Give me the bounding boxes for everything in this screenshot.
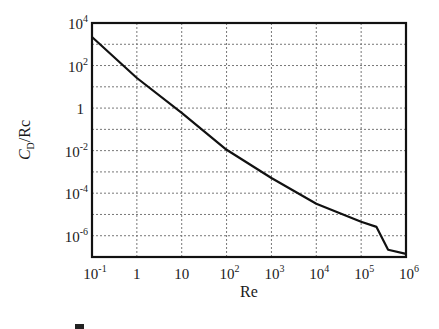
- data-line: [92, 37, 406, 254]
- x-tick-label: 1: [133, 266, 141, 282]
- x-tick-label: 105: [354, 263, 374, 282]
- y-label-main: C: [16, 149, 33, 160]
- x-tick-label: 104: [309, 263, 329, 282]
- chart: 10-1110102103104105106 104102110-210-410…: [0, 0, 439, 329]
- y-tick-label: 102: [68, 56, 88, 75]
- x-tick-label: 10: [174, 266, 189, 282]
- caption-clipped: [75, 324, 335, 329]
- y-axis-label: CD/Rc: [16, 120, 36, 160]
- x-tick-label: 106: [399, 263, 419, 282]
- x-tick-label: 103: [264, 263, 284, 282]
- x-tick-label: 10-1: [83, 263, 106, 282]
- y-tick-label: 10-6: [65, 226, 88, 245]
- y-label-rest: /Rc: [16, 120, 33, 142]
- y-tick-label: 10-4: [65, 183, 88, 202]
- y-label-sub: D: [25, 142, 36, 149]
- y-tick-label: 1: [77, 101, 85, 117]
- x-axis-label: Re: [240, 283, 258, 300]
- svg-text:CD/Rc: CD/Rc: [16, 120, 36, 160]
- y-tick-labels: 104102110-210-410-6: [65, 13, 88, 245]
- x-tick-label: 102: [220, 263, 240, 282]
- y-tick-label: 104: [68, 13, 88, 32]
- x-tick-labels: 10-1110102103104105106: [83, 263, 419, 282]
- y-tick-label: 10-2: [65, 141, 88, 160]
